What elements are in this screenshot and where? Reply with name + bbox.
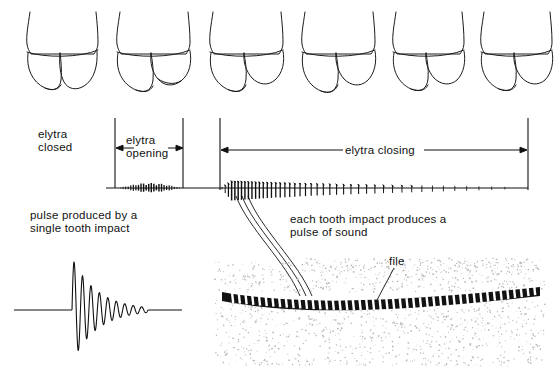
label-pulse-single-tooth: pulse produced by a single tooth impact [30, 209, 137, 235]
file-illustration [214, 257, 545, 366]
label-each-tooth-impact: each tooth impact produces a pulse of so… [290, 213, 446, 239]
beetle-drawing-2 [117, 12, 191, 92]
label-elytra-opening: elytra opening [126, 134, 168, 160]
beetle-drawing-4 [302, 12, 376, 92]
single-pulse-waveform [72, 262, 148, 350]
beetle-drawing-6 [481, 12, 553, 91]
beetle-drawing-row [27, 12, 553, 92]
beetle-drawing-3 [210, 12, 284, 92]
label-elytra-closing: elytra closing [345, 144, 415, 157]
stipple-texture [214, 257, 545, 366]
label-elytra-closed: elytra closed [38, 128, 72, 154]
single-pulse-oscillogram [14, 262, 182, 350]
beetle-drawing-5 [393, 12, 465, 91]
pulse-to-tooth-leaders [236, 196, 312, 296]
stridulation-figure [0, 0, 557, 370]
phase-marker-lines [115, 118, 528, 190]
label-file: file [389, 255, 405, 268]
closing-burst-trace [222, 181, 505, 201]
beetle-drawing-1 [27, 12, 98, 90]
